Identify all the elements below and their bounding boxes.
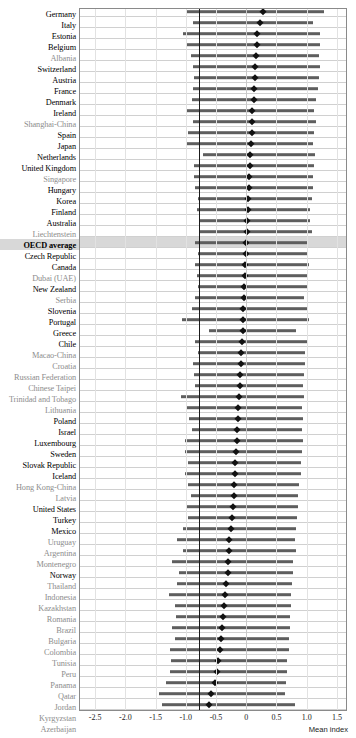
range-bar xyxy=(198,351,306,355)
country-row: Macao-China xyxy=(0,349,79,360)
range-bar xyxy=(172,560,293,564)
country-row: New Zealand xyxy=(0,283,79,294)
range-bar xyxy=(194,175,312,179)
country-label: Iceland xyxy=(52,471,76,480)
country-row: Montenegro xyxy=(0,558,79,569)
country-row: Denmark xyxy=(0,96,79,107)
country-label: OECD average xyxy=(24,240,77,249)
country-label: Slovak Republic xyxy=(22,460,76,469)
country-row: Chile xyxy=(0,338,79,349)
country-row: Kyrgyzstan xyxy=(0,712,79,723)
country-row: Singapore xyxy=(0,173,79,184)
country-row: Netherlands xyxy=(0,151,79,162)
country-row: Bulgaria xyxy=(0,635,79,646)
country-row: Australia xyxy=(0,217,79,228)
country-label: Brazil xyxy=(56,625,76,634)
country-label: Macao-China xyxy=(32,350,76,359)
country-label: Latvia xyxy=(55,493,76,502)
range-bar xyxy=(185,439,303,443)
country-label: Chile xyxy=(59,339,76,348)
country-label: Qatar xyxy=(58,691,76,700)
x-tick-label: 1.5 xyxy=(332,713,342,722)
country-row: Indonesia xyxy=(0,591,79,602)
mean-index-chart: GermanyItalyEstoniaBelgiumAlbaniaSwitzer… xyxy=(0,0,356,738)
country-label: Jordan xyxy=(54,702,76,711)
range-bar xyxy=(191,494,299,498)
country-label: New Zealand xyxy=(33,284,76,293)
country-row: Romania xyxy=(0,613,79,624)
country-label: Portugal xyxy=(49,317,76,326)
x-tick-label: 1.0 xyxy=(302,713,312,722)
range-bar xyxy=(159,692,285,696)
country-label: Canada xyxy=(52,262,76,271)
country-label: Belgium xyxy=(48,42,76,51)
gridline xyxy=(307,9,308,710)
x-tick-label: -2.0 xyxy=(119,713,132,722)
country-row: Russian Federation xyxy=(0,371,79,382)
range-bar xyxy=(166,681,286,685)
country-label: United Kingdom xyxy=(21,163,76,172)
country-row: Italy xyxy=(0,19,79,30)
range-bar xyxy=(193,21,313,25)
country-label: Serbia xyxy=(55,295,76,304)
country-row: Trinidad and Tobago xyxy=(0,393,79,404)
gridline xyxy=(156,9,157,710)
country-label: Italy xyxy=(61,20,76,29)
range-bar xyxy=(185,472,301,476)
country-label: Germany xyxy=(46,9,76,18)
country-label: Panama xyxy=(50,680,76,689)
country-row: Estonia xyxy=(0,30,79,41)
country-row: Slovak Republic xyxy=(0,459,79,470)
range-bar xyxy=(183,32,320,36)
country-row: Serbia xyxy=(0,294,79,305)
country-row: Austria xyxy=(0,74,79,85)
gridline xyxy=(95,9,96,710)
country-row: Sweden xyxy=(0,448,79,459)
country-label: Denmark xyxy=(46,97,76,106)
country-row: Mexico xyxy=(0,525,79,536)
country-row: Turkey xyxy=(0,514,79,525)
country-row: Finland xyxy=(0,206,79,217)
range-bar xyxy=(197,208,311,212)
range-bar xyxy=(175,637,289,641)
country-row: Shanghai-China xyxy=(0,118,79,129)
country-row: Czech Republic xyxy=(0,250,79,261)
range-bar xyxy=(171,659,287,663)
x-tick-label: -0.5 xyxy=(210,713,223,722)
country-row: Portugal xyxy=(0,316,79,327)
country-row: Norway xyxy=(0,569,79,580)
x-tick-label: -1.5 xyxy=(149,713,162,722)
country-row: OECD average xyxy=(0,239,79,250)
country-label: Switzerland xyxy=(37,64,76,73)
country-label: Sweden xyxy=(50,449,76,458)
country-row: Jordan xyxy=(0,701,79,712)
gridline xyxy=(125,9,126,710)
country-label: Luxembourg xyxy=(34,438,76,447)
country-row: Uruguay xyxy=(0,536,79,547)
country-label: Ireland xyxy=(53,108,76,117)
country-row: Croatia xyxy=(0,360,79,371)
range-bar xyxy=(186,505,298,509)
country-label: Thailand xyxy=(47,581,76,590)
range-bar xyxy=(198,285,307,289)
country-label: Bulgaria xyxy=(48,636,76,645)
x-tick-label: 0 xyxy=(244,713,248,722)
country-label: United States xyxy=(33,504,76,513)
country-label: Indonesia xyxy=(45,592,76,601)
country-label: Japan xyxy=(58,141,76,150)
country-label: Peru xyxy=(61,669,76,678)
country-label: France xyxy=(54,86,76,95)
gridline xyxy=(276,9,277,710)
country-row: Azerbaijan xyxy=(0,723,79,734)
country-row: Belgium xyxy=(0,41,79,52)
range-bar xyxy=(198,197,312,201)
country-row: Dubai (UAE) xyxy=(0,272,79,283)
country-label: Kyrgyzstan xyxy=(39,713,76,722)
country-label: Hungary xyxy=(48,185,76,194)
range-bar xyxy=(195,296,304,300)
country-label: Spain xyxy=(58,130,76,139)
country-label: Turkey xyxy=(53,515,76,524)
country-row: Hong Kong-China xyxy=(0,481,79,492)
range-bar xyxy=(185,450,302,454)
x-axis-ticks: -2.5-2.0-1.5-1.0-0.500.51.01.5 xyxy=(79,713,348,725)
